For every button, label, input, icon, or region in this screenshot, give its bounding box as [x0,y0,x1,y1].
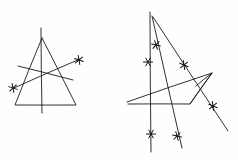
geometric-figure-drawing [0,0,238,160]
drawing-canvas [0,0,238,160]
